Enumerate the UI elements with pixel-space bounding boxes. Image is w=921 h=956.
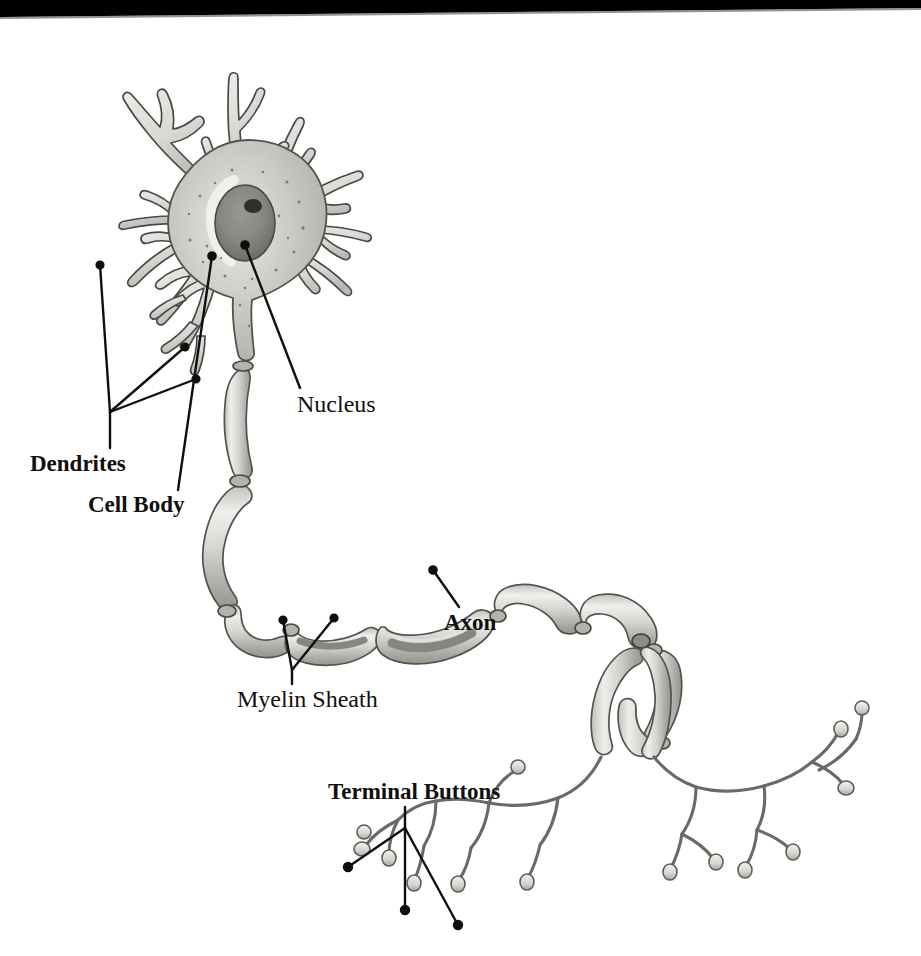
leader-dendrites-2 bbox=[110, 347, 185, 412]
terminal-button bbox=[511, 760, 525, 774]
leader-dot bbox=[208, 252, 215, 259]
terminal-branch-r11 bbox=[819, 739, 856, 770]
terminal-tree-left bbox=[354, 757, 601, 892]
leader-dendrites-3 bbox=[110, 379, 196, 412]
node-of-ranvier-5 bbox=[575, 622, 591, 634]
terminal-branch-r10 bbox=[757, 830, 789, 848]
leader-dot bbox=[182, 344, 189, 351]
terminal-button bbox=[451, 876, 465, 892]
terminal-branch-l10 bbox=[459, 848, 471, 880]
label-terminal-buttons: Terminal Buttons bbox=[328, 780, 500, 803]
nucleolus-shape bbox=[244, 199, 262, 213]
terminal-branch-l6 bbox=[424, 801, 436, 846]
terminal-branch-r9 bbox=[746, 830, 757, 866]
leader-dot bbox=[97, 262, 104, 269]
terminal-button bbox=[738, 862, 752, 878]
terminal-branch-r4 bbox=[757, 786, 765, 830]
leader-axon bbox=[433, 570, 459, 607]
terminal-button-group-right bbox=[663, 721, 854, 880]
terminal-branch-l4 bbox=[471, 803, 489, 848]
terminal-button bbox=[520, 874, 534, 890]
terminal-branch-l2 bbox=[540, 798, 558, 845]
terminal-button-group-left bbox=[354, 825, 534, 892]
terminal-button bbox=[709, 854, 723, 870]
terminal-branch-r12 bbox=[856, 712, 862, 739]
terminal-trunk-right bbox=[654, 757, 696, 787]
terminal-button bbox=[407, 875, 421, 891]
terminal-button bbox=[834, 721, 848, 737]
axon-branch-node bbox=[632, 634, 650, 648]
node-of-ranvier-2 bbox=[218, 605, 236, 617]
terminal-branch-r7 bbox=[671, 834, 682, 868]
terminal-button bbox=[838, 781, 854, 795]
leader-dendrites-1 bbox=[100, 265, 110, 412]
leader-dot bbox=[280, 617, 287, 624]
leader-dot bbox=[331, 615, 338, 622]
terminal-branch-r2 bbox=[682, 787, 696, 834]
leader-dot bbox=[241, 241, 248, 248]
leader-dot bbox=[429, 566, 436, 573]
terminal-branch-r3 bbox=[764, 762, 812, 786]
terminal-button bbox=[786, 844, 800, 860]
myelin-segment-6 bbox=[494, 584, 581, 633]
terminal-button bbox=[855, 701, 869, 715]
terminal-button bbox=[663, 864, 677, 880]
terminal-branch-r8 bbox=[682, 834, 713, 858]
leader-dot bbox=[401, 906, 409, 914]
terminal-branch-r5 bbox=[812, 733, 838, 762]
label-cell-body: Cell Body bbox=[88, 493, 184, 516]
myelin-segment-2 bbox=[203, 485, 252, 610]
neuron-illustration bbox=[0, 0, 921, 956]
terminal-branch-l9 bbox=[528, 845, 540, 878]
leader-dot bbox=[454, 921, 462, 929]
label-nucleus: Nucleus bbox=[297, 392, 376, 416]
terminal-button bbox=[357, 825, 371, 839]
terminal-tree-right bbox=[654, 721, 854, 880]
label-axon: Axon bbox=[444, 611, 496, 634]
label-myelin-sheath: Myelin Sheath bbox=[237, 687, 378, 711]
label-dendrites: Dendrites bbox=[30, 452, 126, 475]
terminal-trunk-left bbox=[558, 757, 601, 798]
node-of-ranvier-1 bbox=[230, 475, 250, 487]
node-of-ranvier-0 bbox=[233, 361, 253, 371]
leader-dot bbox=[344, 863, 352, 871]
myelin-segment-1 bbox=[224, 368, 252, 479]
neuron-diagram-page: Dendrites Cell Body Nucleus Myelin Sheat… bbox=[0, 0, 921, 956]
terminal-branch-r1 bbox=[696, 786, 764, 791]
terminal-button bbox=[382, 850, 396, 866]
label-leader-lines bbox=[97, 241, 462, 929]
